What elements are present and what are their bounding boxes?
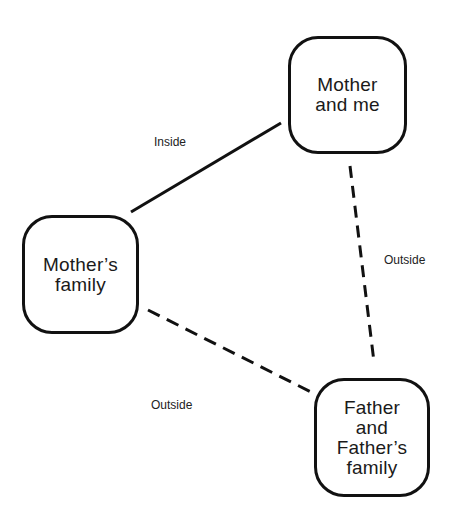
edge-label-outside-right: Outside xyxy=(384,253,425,267)
edge-outside-vertical-dashed-line xyxy=(350,166,374,362)
diagram-canvas: Mother and me Mother’s family Father and… xyxy=(0,0,455,531)
edge-outside-lower-dashed-line xyxy=(148,310,311,392)
node-label: Mother and me xyxy=(315,75,380,115)
edge-label-inside: Inside xyxy=(154,135,186,149)
node-label: Father and Father’s family xyxy=(337,398,408,478)
node-father-and-fathers-family[interactable]: Father and Father’s family xyxy=(314,378,430,497)
node-mother-and-me[interactable]: Mother and me xyxy=(288,36,407,154)
node-mothers-family[interactable]: Mother’s family xyxy=(22,215,139,334)
edge-label-outside-bottom: Outside xyxy=(151,398,192,412)
node-label: Mother’s family xyxy=(43,255,118,295)
